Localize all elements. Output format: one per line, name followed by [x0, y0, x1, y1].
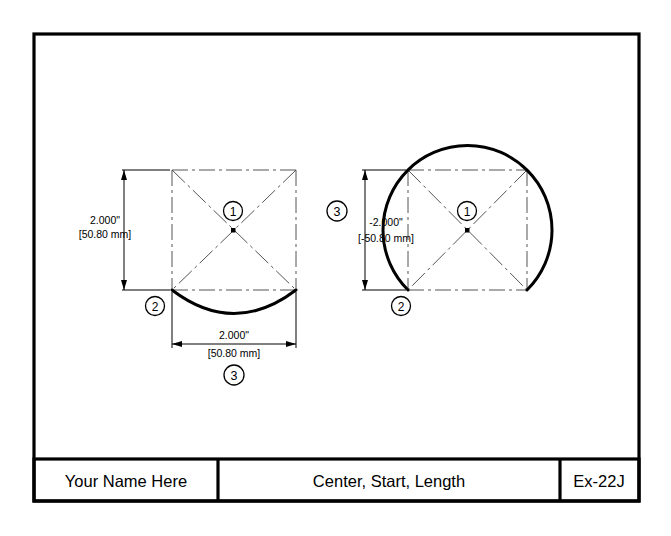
balloon-label: 2 [398, 300, 405, 314]
balloon-label: 2 [152, 300, 159, 314]
left-balloon-1: 1 [224, 202, 243, 221]
right-balloon-2: 2 [392, 297, 411, 316]
title-block-number-cell: Ex-22J [573, 472, 624, 490]
right-balloon-3: 3 [327, 201, 347, 221]
left-horizontal-dim-mm: [50.80 mm] [208, 347, 261, 359]
left-vertical-dim-mm: [50.80 mm] [79, 228, 132, 240]
right-balloon-1: 1 [458, 202, 477, 221]
balloon-label: 3 [334, 205, 341, 219]
left-horizontal-dim-inches: 2.000" [219, 329, 249, 341]
right-vertical-dim-mm: [-50.80 mm] [358, 232, 414, 244]
left-balloon-2: 2 [146, 297, 165, 316]
right-center-point [465, 228, 470, 233]
left-balloon-3: 3 [224, 365, 244, 385]
left-vertical-dim-inches: 2.000" [90, 214, 120, 226]
balloon-label: 1 [464, 205, 471, 219]
title-block-title-cell: Center, Start, Length [313, 472, 465, 490]
drawing-sheet: Your Name Here Center, Start, Length Ex-… [0, 0, 671, 536]
sheet-background [0, 0, 671, 536]
title-block-name-cell: Your Name Here [65, 472, 187, 490]
balloon-label: 3 [231, 369, 238, 383]
balloon-label: 1 [230, 205, 237, 219]
right-vertical-dim-inches: -2.000" [369, 216, 403, 228]
left-center-point [231, 228, 236, 233]
